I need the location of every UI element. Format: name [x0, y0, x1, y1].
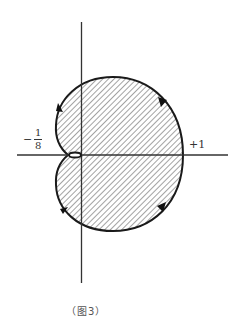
plus-one-label: +1: [189, 139, 205, 150]
minus-sign: −: [23, 133, 32, 146]
origin-loop: [69, 153, 81, 158]
figure-caption: （图3）: [66, 307, 106, 317]
fraction-denominator: 8: [35, 141, 41, 151]
neg-one-eighth-label: − 1 8: [23, 128, 42, 151]
contour-diagram: [0, 0, 239, 325]
fraction-numerator: 1: [35, 128, 41, 138]
